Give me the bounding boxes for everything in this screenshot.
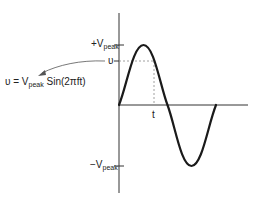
diagram-graphics [0, 0, 258, 202]
sine-wave-diagram: +Vpeak υ υ = Vpeak Sin(2πft) t −Vpeak [0, 0, 258, 202]
equation-rhs: Sin(2πft) [44, 76, 86, 87]
time-label: t [152, 110, 155, 120]
pos-peak-label: +Vpeak [91, 39, 119, 49]
equation-sub: peak [29, 81, 44, 88]
instant-value-label: υ [108, 56, 113, 66]
pointer-arrow [42, 61, 105, 73]
equation-lhs: υ = V [5, 76, 29, 87]
pos-peak-prefix: +V [91, 38, 104, 49]
neg-peak-prefix: −V [90, 159, 103, 170]
equation-label: υ = Vpeak Sin(2πft) [5, 77, 86, 87]
neg-peak-sub: peak [103, 164, 118, 171]
pos-peak-sub: peak [104, 43, 119, 50]
neg-peak-label: −Vpeak [90, 160, 118, 170]
